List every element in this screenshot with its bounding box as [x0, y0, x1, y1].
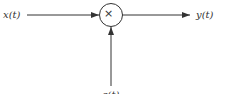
multiply-symbol: ×	[104, 9, 113, 19]
bottom-input-label: c(t)	[102, 90, 119, 94]
input-label: x(t)	[3, 10, 20, 20]
output-label: y(t)	[196, 10, 213, 20]
